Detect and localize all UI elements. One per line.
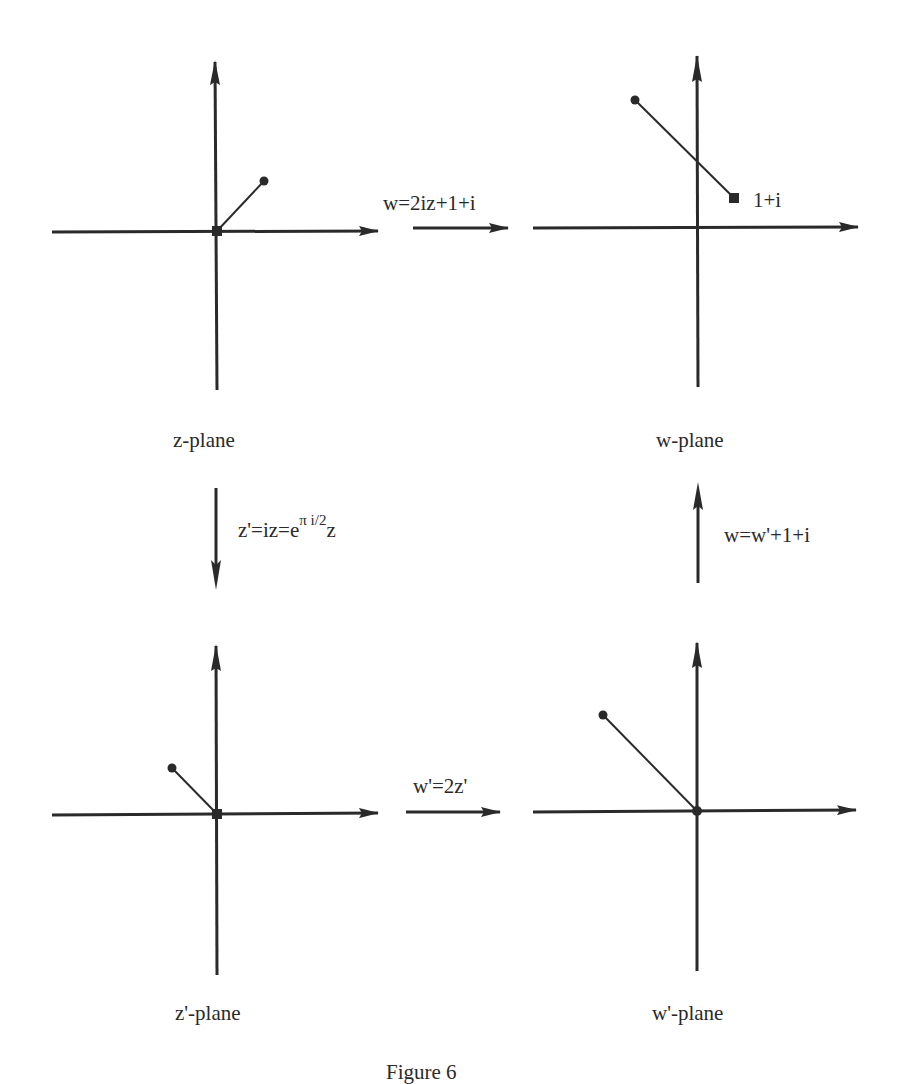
arrow-wprime-to-w	[693, 482, 703, 583]
map-label-zprime-to-wprime: w'=2z'	[413, 776, 467, 797]
arrow-z-to-zprime	[211, 488, 221, 590]
w-plane-point-label: 1+i	[753, 190, 781, 211]
z-plane-label: z-plane	[173, 430, 235, 451]
zprime-plane-label: z'-plane	[175, 1003, 241, 1024]
wprime-plane-axes	[533, 641, 856, 971]
map-label-base: z'=iz=e	[238, 518, 299, 542]
w-plane-label: w-plane	[656, 430, 724, 451]
map-label-z-to-zprime: z'=iz=eπ i/2z	[238, 520, 336, 541]
map-label-wprime-to-w: w=w'+1+i	[724, 525, 810, 546]
z-plane-axes	[52, 60, 378, 390]
wprime-plane-label: w'-plane	[652, 1003, 723, 1024]
wprime-plane-segment	[599, 711, 703, 817]
w-plane-axes	[533, 55, 858, 387]
figure-caption: Figure 6	[386, 1062, 457, 1083]
map-label-exponent: π i/2	[299, 512, 326, 528]
map-label-z-to-w: w=2iz+1+i	[383, 193, 476, 214]
w-plane-segment	[631, 96, 740, 204]
map-label-tail: z	[326, 518, 335, 542]
z-plane-segment	[212, 177, 269, 237]
zprime-plane-segment	[168, 764, 223, 820]
